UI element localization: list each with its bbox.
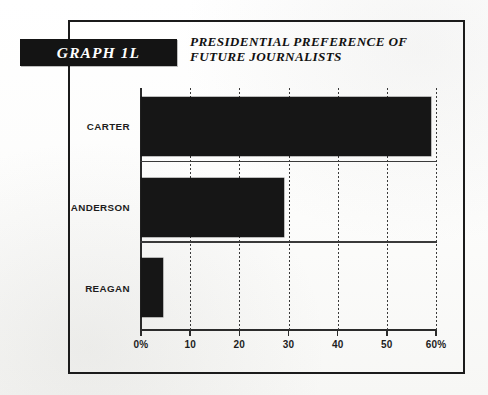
chart-title-line-2: FUTURE JOURNALISTS <box>190 49 455 64</box>
gridline-60 <box>436 88 437 330</box>
axis-tick-label-60: 60% <box>426 339 447 350</box>
axis-tick-label-50: 50 <box>381 339 393 350</box>
axis-tick-label-20: 20 <box>234 339 246 350</box>
axis-tick-label-0: 0% <box>134 339 149 350</box>
axis-tick-20 <box>239 330 240 336</box>
plot-area: 0%102030405060% CARTERANDERSONREAGAN <box>141 88 436 330</box>
group-separator-1 <box>140 241 437 243</box>
axis-tick-label-10: 10 <box>184 339 196 350</box>
graph-number-label: GRAPH 1L <box>20 43 177 61</box>
bar-anderson <box>141 178 284 237</box>
axis-tick-60 <box>435 330 436 336</box>
axis-tick-50 <box>386 330 387 336</box>
graph-figure: GRAPH 1L PRESIDENTIAL PREFERENCE OF FUTU… <box>0 0 488 395</box>
axis-tick-label-40: 40 <box>332 339 344 350</box>
category-label-anderson: ANDERSON <box>71 202 130 213</box>
category-label-reagan: REAGAN <box>85 282 130 293</box>
bar-reagan <box>141 258 163 317</box>
chart-title: PRESIDENTIAL PREFERENCE OF FUTURE JOURNA… <box>190 34 455 64</box>
category-label-carter: CARTER <box>87 121 130 132</box>
chart-title-line-1: PRESIDENTIAL PREFERENCE OF <box>190 34 455 49</box>
axis-tick-label-30: 30 <box>283 339 295 350</box>
axis-tick-40 <box>337 330 338 336</box>
axis-tick-0 <box>140 330 141 336</box>
bar-carter <box>141 97 431 156</box>
graph-number-tag: GRAPH 1L <box>20 39 177 66</box>
group-separator-0 <box>140 161 437 163</box>
axis-tick-10 <box>189 330 190 336</box>
axis-tick-30 <box>288 330 289 336</box>
